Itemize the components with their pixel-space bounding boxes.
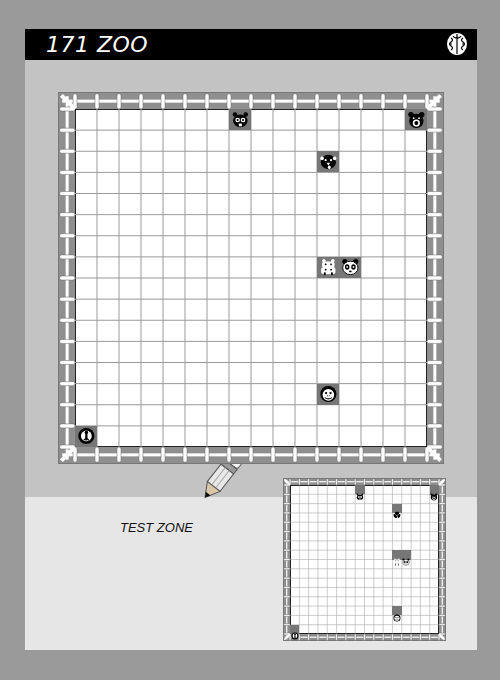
animal-tile-beaver — [229, 109, 251, 130]
ostrich-icon — [291, 625, 299, 633]
animal-tile-bear — [430, 485, 439, 494]
panda-icon — [341, 258, 360, 276]
bear-icon — [430, 486, 438, 494]
animal-tile-monkey — [392, 606, 401, 615]
animal-tile-beaver — [355, 485, 364, 494]
monkey-icon — [393, 607, 401, 615]
monkey-icon — [319, 385, 338, 403]
test-zone-board — [283, 478, 446, 641]
test-zone-grid[interactable] — [290, 485, 439, 634]
zoo-board — [58, 92, 444, 464]
animal-tile-hippo — [392, 550, 401, 559]
animal-tile-panda — [339, 257, 361, 278]
animal-tile-monkey — [317, 384, 339, 405]
hippo-icon — [319, 258, 338, 276]
brain-icon — [446, 32, 468, 56]
bear-icon — [407, 111, 426, 129]
animal-tile-panda — [402, 550, 411, 559]
animal-tile-dog — [317, 151, 339, 172]
ostrich-icon — [77, 427, 96, 445]
test-zone-label: TEST ZONE — [120, 520, 193, 535]
dog-icon — [319, 153, 338, 171]
hippo-icon — [393, 551, 401, 559]
title-bar: 171 ZOO — [25, 29, 477, 60]
panda-icon — [402, 551, 410, 559]
zoo-grid[interactable] — [75, 109, 427, 447]
animal-tile-ostrich — [290, 625, 299, 634]
beaver-icon — [356, 486, 364, 494]
puzzle-title: 171 ZOO — [46, 31, 148, 58]
animal-tile-bear — [405, 109, 427, 130]
dog-icon — [393, 504, 401, 512]
animal-tile-dog — [392, 504, 401, 513]
animal-tile-hippo — [317, 257, 339, 278]
animal-tile-ostrich — [75, 426, 97, 447]
beaver-icon — [231, 111, 250, 129]
